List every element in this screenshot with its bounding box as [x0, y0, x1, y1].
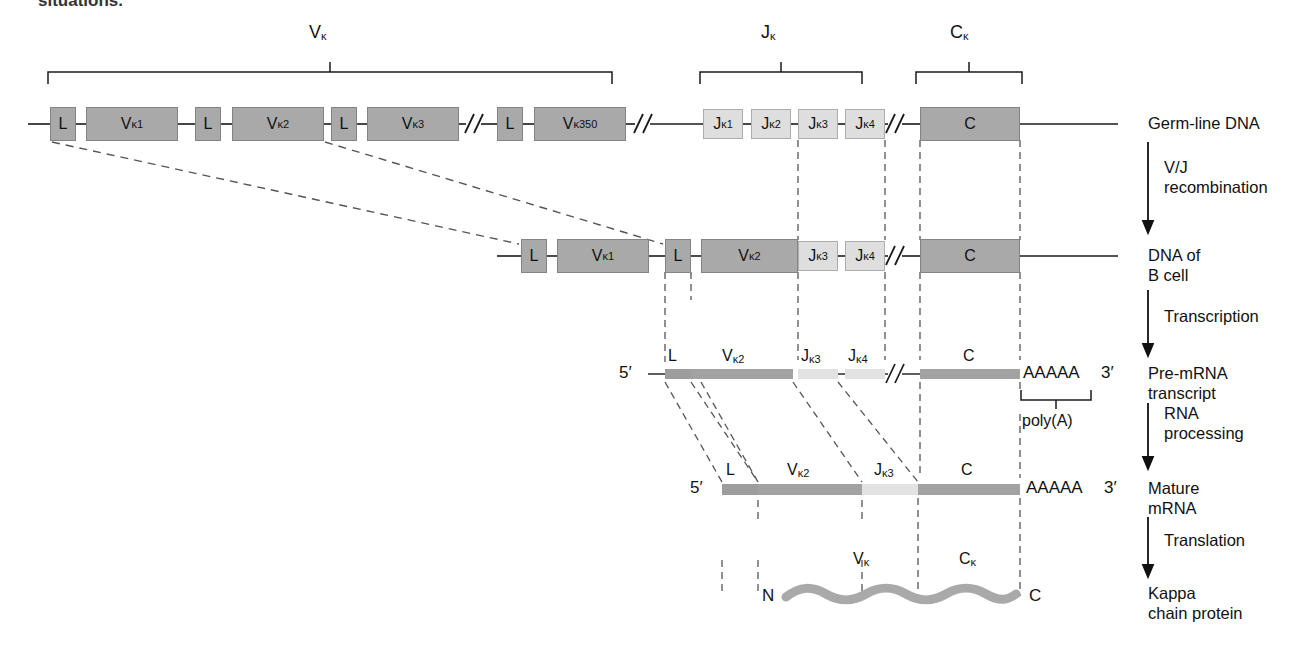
stage-label-mature-mrna: Mature mRNA	[1148, 478, 1199, 518]
step-label-transcription: Transcription	[1164, 306, 1259, 326]
step-label-line: Transcription	[1164, 306, 1259, 326]
j-bracket-label: Jκ	[761, 22, 776, 43]
maturemrna-label-Vk2: Vκ2	[787, 462, 809, 481]
stage-label-line: B cell	[1148, 265, 1200, 285]
premrna-label-L: L	[668, 348, 677, 364]
stage-label-pre-mrna: Pre-mRNA transcript	[1148, 363, 1228, 403]
step-label-line: recombination	[1164, 177, 1268, 197]
step-label-line: RNA	[1164, 403, 1244, 423]
protein-domain-Ck: Cκ	[959, 551, 976, 570]
segment-C-germline[interactable]: C	[920, 107, 1020, 141]
stage-label-line: Germ-line DNA	[1148, 113, 1260, 133]
c-bracket-label: Cκ	[950, 22, 969, 43]
segment-Vk350[interactable]: Vκ350	[534, 107, 626, 141]
bcell-segment-L-1[interactable]: L	[521, 239, 547, 273]
maturemrna-exon-L[interactable]	[722, 484, 758, 495]
step-label-translation: Translation	[1164, 530, 1245, 550]
bcell-segment-C[interactable]: C	[920, 239, 1020, 273]
step-label-line: V/J	[1164, 157, 1268, 177]
maturemrna-polyA-tail: AAAAA	[1026, 478, 1083, 498]
maturemrna-5prime: 5′	[690, 478, 703, 498]
segment-Jk1[interactable]: Jκ1	[703, 109, 743, 139]
step-label-line: processing	[1164, 423, 1244, 443]
premrna-label-C: C	[963, 348, 975, 364]
premrna-exon-Jk4[interactable]	[845, 369, 885, 379]
premrna-label-Vk2: Vκ2	[722, 348, 744, 367]
stage-label-kappa-protein: Kappa chain protein	[1148, 583, 1242, 623]
stage-label-line: Kappa	[1148, 583, 1242, 603]
segment-L-3[interactable]: L	[331, 107, 357, 141]
alignment-guides	[665, 140, 1020, 596]
stage-label-line: Pre-mRNA	[1148, 363, 1228, 383]
premrna-exon-Vk2[interactable]	[691, 369, 793, 379]
premrna-label-Jk3: Jκ3	[801, 348, 821, 367]
maturemrna-label-Jk3: Jκ3	[874, 462, 894, 481]
stage-label-line: mRNA	[1148, 498, 1199, 518]
stage-label-line: chain protein	[1148, 603, 1242, 623]
premrna-3prime: 3′	[1101, 363, 1114, 383]
recombination-connectors	[52, 142, 663, 244]
maturemrna-exon-C[interactable]	[918, 484, 1020, 495]
segment-Jk4[interactable]: Jκ4	[845, 109, 885, 139]
stage-label-line: Mature	[1148, 478, 1199, 498]
premrna-5prime: 5′	[619, 363, 632, 383]
maturemrna-exon-Vk2[interactable]	[758, 484, 862, 495]
bcell-segment-Jk4[interactable]: Jκ4	[845, 241, 885, 271]
segment-Vk3[interactable]: Vκ3	[367, 107, 459, 141]
bcell-segment-Vk1[interactable]: Vκ1	[557, 239, 649, 273]
premrna-polyA-tail: AAAAA	[1023, 363, 1080, 383]
stage-label-dna-b-cell: DNA of B cell	[1148, 245, 1200, 285]
protein-c-terminus: C	[1029, 586, 1041, 606]
segment-L-4[interactable]: L	[497, 107, 523, 141]
segment-Vk2[interactable]: Vκ2	[232, 107, 324, 141]
figure-canvas: situations.	[0, 0, 1316, 662]
stage-label-line: DNA of	[1148, 245, 1200, 265]
protein-domain-Vk: Vκ	[853, 551, 869, 570]
stage-label-line: transcript	[1148, 383, 1228, 403]
premrna-exon-L[interactable]	[665, 369, 691, 379]
segment-L-2[interactable]: L	[195, 107, 221, 141]
diagram-svg	[0, 0, 1316, 662]
stage-label-germline-dna: Germ-line DNA	[1148, 113, 1260, 133]
polya-label: poly(A)	[1022, 412, 1073, 430]
premrna-label-Jk4: Jκ4	[848, 348, 868, 367]
segment-L-1[interactable]: L	[50, 107, 76, 141]
premrna-exon-Jk3[interactable]	[798, 369, 838, 379]
protein-chain	[786, 588, 1016, 600]
segment-Jk3[interactable]: Jκ3	[798, 109, 838, 139]
maturemrna-label-C: C	[961, 462, 973, 478]
segment-Jk2[interactable]: Jκ2	[751, 109, 791, 139]
maturemrna-exon-Jk3[interactable]	[862, 484, 918, 495]
step-label-line: Translation	[1164, 530, 1245, 550]
step-label-vj-recombination: V/J recombination	[1164, 157, 1268, 197]
premrna-exon-C[interactable]	[920, 369, 1020, 379]
step-label-rna-processing: RNA processing	[1164, 403, 1244, 443]
segment-Vk1[interactable]: Vκ1	[86, 107, 178, 141]
bcell-segment-Jk3[interactable]: Jκ3	[798, 241, 838, 271]
bcell-segment-L-2[interactable]: L	[665, 239, 691, 273]
v-bracket-label: Vκ	[309, 22, 327, 43]
maturemrna-label-L: L	[726, 462, 735, 478]
bcell-segment-Vk2[interactable]: Vκ2	[701, 239, 798, 273]
protein-n-terminus: N	[762, 586, 774, 606]
maturemrna-3prime: 3′	[1104, 478, 1117, 498]
